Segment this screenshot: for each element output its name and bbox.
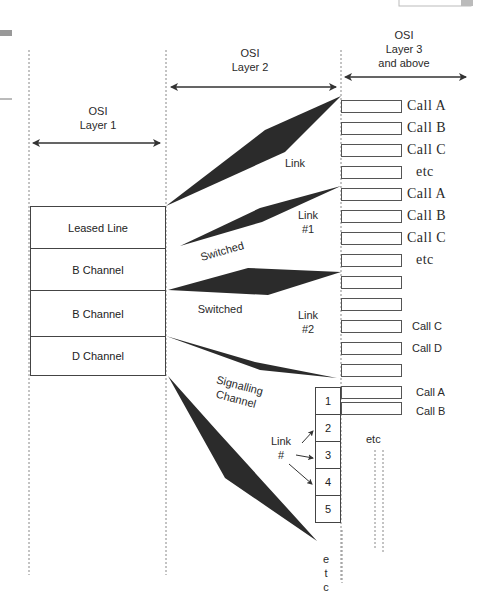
channel-b2: B Channel bbox=[30, 290, 166, 337]
link-number-2: 2 bbox=[315, 414, 341, 442]
switched-label-2: Switched bbox=[190, 302, 250, 316]
layer1-title: OSI bbox=[58, 104, 138, 118]
layer2-title: OSI bbox=[210, 46, 290, 60]
call-slot bbox=[341, 210, 402, 223]
link-number-3: 3 bbox=[315, 441, 341, 469]
call-slot bbox=[341, 144, 402, 157]
link-number-5: 5 bbox=[315, 495, 341, 523]
link-number-label-bottom: # bbox=[266, 448, 296, 462]
call-label: Call C bbox=[412, 319, 442, 333]
call-slot bbox=[341, 298, 402, 311]
call-label: etc bbox=[416, 253, 434, 267]
call-label: Call C bbox=[407, 143, 446, 157]
link1-label: Link #1 bbox=[288, 208, 328, 236]
link-number-1: 1 bbox=[315, 387, 341, 415]
layer3-label: OSI Layer 3 and above bbox=[365, 28, 443, 70]
link2-label-top: Link bbox=[288, 308, 328, 322]
call-slot bbox=[341, 386, 402, 399]
call-label: Call C bbox=[407, 231, 446, 245]
call-label: Call A bbox=[416, 385, 445, 399]
call-label: Call D bbox=[412, 341, 442, 355]
channel-label: Leased Line bbox=[68, 222, 128, 234]
layer3-title: OSI bbox=[365, 28, 443, 42]
call-label: Call B bbox=[416, 404, 445, 418]
channel-label: B Channel bbox=[72, 264, 123, 276]
link-number-label: Link # bbox=[266, 434, 296, 462]
page-marker bbox=[0, 30, 12, 36]
channel-leased-line: Leased Line bbox=[30, 206, 166, 249]
call-slot bbox=[341, 402, 402, 415]
call-label: Call B bbox=[407, 209, 446, 223]
link-number-label-top: Link bbox=[266, 434, 296, 448]
channel-label: D Channel bbox=[72, 350, 124, 362]
etc-letter: c bbox=[320, 580, 332, 594]
call-label: Call B bbox=[407, 121, 446, 135]
call-slot bbox=[341, 232, 402, 245]
call-slot bbox=[341, 320, 402, 333]
call-slot bbox=[341, 276, 402, 289]
channel-label: B Channel bbox=[72, 308, 123, 320]
etc-letter: t bbox=[320, 566, 332, 580]
link1-label-top: Link bbox=[288, 208, 328, 222]
channel-d: D Channel bbox=[30, 336, 166, 376]
channel-b1: B Channel bbox=[30, 248, 166, 291]
layer3-subtitle-2: and above bbox=[365, 56, 443, 70]
call-slot bbox=[341, 364, 402, 377]
link1-label-bottom: #1 bbox=[288, 222, 328, 236]
call-label: Call A bbox=[407, 187, 446, 201]
call-label: etc bbox=[416, 165, 434, 179]
link-label: Link bbox=[275, 156, 315, 170]
call-slot bbox=[341, 100, 402, 113]
call-slot bbox=[341, 122, 402, 135]
etc-label: etc bbox=[366, 432, 381, 446]
layer1-subtitle: Layer 1 bbox=[58, 118, 138, 132]
layer3-subtitle: Layer 3 bbox=[365, 42, 443, 56]
layer2-subtitle: Layer 2 bbox=[210, 60, 290, 74]
link2-label: Link #2 bbox=[288, 308, 328, 336]
etc-letter: e bbox=[320, 552, 332, 566]
call-slot bbox=[341, 342, 402, 355]
link2-label-bottom: #2 bbox=[288, 322, 328, 336]
layer2-label: OSI Layer 2 bbox=[210, 46, 290, 74]
call-slot bbox=[341, 188, 402, 201]
call-slot bbox=[341, 254, 402, 267]
wedge-link bbox=[166, 96, 341, 206]
link-number-4: 4 bbox=[315, 468, 341, 496]
call-label: Call A bbox=[407, 99, 446, 113]
call-slot bbox=[341, 166, 402, 179]
layer1-label: OSI Layer 1 bbox=[58, 104, 138, 132]
etc-vertical: e t c bbox=[320, 552, 332, 594]
